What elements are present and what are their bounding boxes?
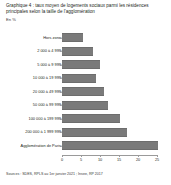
chart-figure: Graphique 4 : taux moyen de logements so…: [0, 0, 171, 185]
bar-track: [62, 31, 157, 45]
category-label: 2 000 à 4 999: [37, 49, 61, 54]
x-tick-label: 15: [117, 158, 121, 162]
category-label: Hors zone: [43, 35, 61, 40]
bar: [62, 74, 96, 83]
bar: [62, 114, 120, 123]
x-tick: [138, 155, 139, 157]
category-label: 20 000 à 49 999: [33, 89, 61, 94]
x-tick: [62, 155, 63, 157]
bar: [62, 60, 100, 69]
bar-row: 5 000 à 9 999: [0, 58, 171, 72]
bar-row: 2 000 à 4 999: [0, 45, 171, 59]
bar-track: [62, 45, 157, 59]
chart-header: Graphique 4 : taux moyen de logements so…: [6, 3, 164, 22]
bar-track: [62, 139, 157, 153]
x-tick-label: 25: [155, 158, 159, 162]
category-label: 5 000 à 9 999: [37, 62, 61, 67]
bar-row: 10 000 à 19 999: [0, 72, 171, 86]
bar: [62, 87, 104, 96]
bar-rows: Hors zone2 000 à 4 9995 000 à 9 99910 00…: [0, 31, 171, 155]
chart-title: Graphique 4 : taux moyen de logements so…: [6, 3, 164, 15]
bar-row: 100 000 à 199 999: [0, 112, 171, 126]
x-tick: [81, 155, 82, 157]
chart-unit-label: En %: [6, 17, 164, 23]
category-label: 100 000 à 199 999: [29, 116, 61, 121]
bar-track: [62, 126, 157, 140]
bar-row: Agglomération de Paris: [0, 139, 171, 153]
bar-row: 20 000 à 49 999: [0, 85, 171, 99]
bar: [62, 101, 108, 110]
bar-track: [62, 85, 157, 99]
bar: [62, 128, 127, 137]
source-block: Sources : SDES, RPLS au 1er janvier 2021…: [6, 172, 166, 176]
x-tick: [119, 155, 120, 157]
bar: [62, 33, 83, 42]
category-label: Agglomération de Paris: [21, 143, 61, 148]
x-axis-ticks: 0510152025: [0, 155, 171, 164]
category-label: 10 000 à 19 999: [33, 76, 61, 81]
bar: [62, 141, 158, 150]
x-tick: [100, 155, 101, 157]
x-tick-label: 5: [80, 158, 82, 162]
source-text: Sources : SDES, RPLS au 1er janvier 2021…: [6, 172, 166, 176]
x-tick-label: 0: [61, 158, 63, 162]
bar-track: [62, 99, 157, 113]
bar-track: [62, 58, 157, 72]
x-tick-label: 10: [98, 158, 102, 162]
bar-row: 200 000 à 1 999 999: [0, 126, 171, 140]
bar-track: [62, 72, 157, 86]
bar-track: [62, 112, 157, 126]
category-label: 50 000 à 99 999: [33, 103, 61, 108]
plot-area: Hors zone2 000 à 4 9995 000 à 9 99910 00…: [0, 31, 171, 163]
x-tick: [157, 155, 158, 157]
bar: [62, 47, 93, 56]
bar-row: Hors zone: [0, 31, 171, 45]
category-label: 200 000 à 1 999 999: [25, 130, 61, 135]
x-tick-label: 20: [136, 158, 140, 162]
bar-row: 50 000 à 99 999: [0, 99, 171, 113]
